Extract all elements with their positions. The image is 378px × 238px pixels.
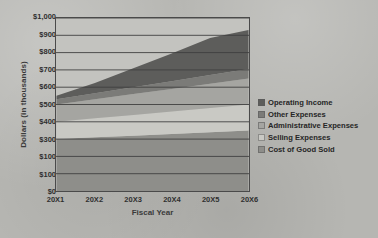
plot-area [55, 17, 250, 192]
legend-item[interactable]: Cost of Good Sold [258, 143, 378, 155]
legend-swatch [258, 134, 265, 141]
legend-item[interactable]: Other Expenses [258, 109, 378, 121]
x-axis-title: Fiscal Year [55, 208, 250, 217]
y-axis-tick-label: $400 [18, 118, 56, 126]
y-axis-tick-label: $100 [18, 171, 56, 179]
x-axis-tick-label: 20X6 [230, 195, 270, 204]
legend-label: Cost of Good Sold [268, 145, 335, 154]
legend-item[interactable]: Operating Income [258, 97, 378, 109]
legend-swatch [258, 146, 265, 153]
y-axis-tick-label: $1,000 [18, 13, 56, 21]
y-axis-tick-label: $800 [18, 48, 56, 56]
y-axis-tick-label: $700 [18, 66, 56, 74]
legend-item[interactable]: Selling Expenses [258, 132, 378, 144]
x-axis-tick-labels: 20X120X220X320X420X520X6 [0, 195, 378, 207]
x-axis-tick-label: 20X4 [152, 195, 192, 204]
y-axis-tick-label: $900 [18, 31, 56, 39]
legend-swatch [258, 122, 265, 129]
y-axis-tick-label: $500 [18, 101, 56, 109]
x-axis-tick-label: 20X2 [74, 195, 114, 204]
stacked-area-chart: Dollars (in thousands) $1,000$900$800$70… [0, 0, 378, 238]
x-axis-tick-label: 20X3 [113, 195, 153, 204]
legend-label: Administrative Expenses [268, 121, 358, 130]
y-axis-tick-label: $600 [18, 83, 56, 91]
x-axis-tick-label: 20X1 [36, 195, 76, 204]
legend-label: Operating Income [268, 98, 333, 107]
legend-label: Selling Expenses [268, 133, 330, 142]
y-axis-tick-label: $300 [18, 136, 56, 144]
legend-swatch [258, 111, 265, 118]
legend-label: Other Expenses [268, 110, 326, 119]
y-axis-tick-label: $100 [18, 153, 56, 161]
x-axis-tick-label: 20X5 [191, 195, 231, 204]
plot-svg [56, 18, 249, 191]
legend-swatch [258, 99, 265, 106]
chart-legend: Operating IncomeOther ExpensesAdministra… [258, 97, 378, 155]
legend-item[interactable]: Administrative Expenses [258, 120, 378, 132]
